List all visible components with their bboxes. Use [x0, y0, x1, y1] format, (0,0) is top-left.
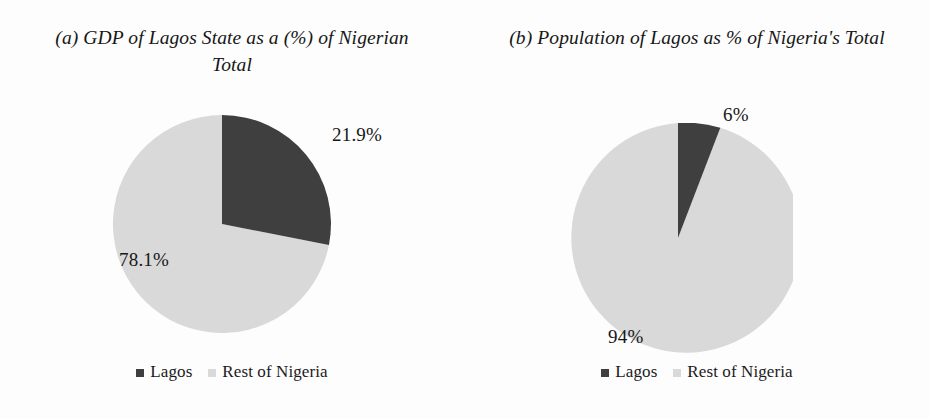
pie-chart-a — [113, 115, 331, 333]
legend-b-label-lagos: Lagos — [615, 362, 657, 382]
panel-b-plot-area: 6% 94% — [465, 0, 929, 419]
legend-b: Lagos Rest of Nigeria — [465, 362, 929, 382]
pie-a-slice-lagos — [222, 115, 331, 245]
chart-panel-a: (a) GDP of Lagos State as a (%) of Niger… — [0, 0, 464, 419]
figure-container: (a) GDP of Lagos State as a (%) of Niger… — [0, 0, 929, 419]
legend-a-swatch-rest-of-nigeria-icon — [208, 369, 216, 377]
legend-b-swatch-lagos-icon — [601, 369, 609, 377]
pie-a-label-lagos: 21.9% — [332, 124, 382, 146]
pie-chart-b — [563, 123, 793, 353]
chart-panel-b: (b) Population of Lagos as % of Nigeria'… — [465, 0, 929, 419]
legend-b-item-lagos[interactable]: Lagos — [601, 362, 657, 382]
legend-a-item-lagos[interactable]: Lagos — [136, 362, 192, 382]
legend-a-label-lagos: Lagos — [150, 362, 192, 382]
pie-b-label-lagos: 6% — [723, 104, 749, 126]
legend-b-label-rest-of-nigeria: Rest of Nigeria — [687, 362, 792, 382]
legend-a-item-rest-of-nigeria[interactable]: Rest of Nigeria — [208, 362, 327, 382]
legend-a-swatch-lagos-icon — [136, 369, 144, 377]
legend-b-item-rest-of-nigeria[interactable]: Rest of Nigeria — [673, 362, 792, 382]
panel-a-plot-area: 21.9% 78.1% — [0, 0, 464, 419]
legend-a: Lagos Rest of Nigeria — [0, 362, 464, 382]
pie-a-label-rest-of-nigeria: 78.1% — [119, 249, 169, 271]
pie-b-label-rest-of-nigeria: 94% — [608, 326, 643, 348]
legend-a-label-rest-of-nigeria: Rest of Nigeria — [222, 362, 327, 382]
legend-b-swatch-rest-of-nigeria-icon — [673, 369, 681, 377]
